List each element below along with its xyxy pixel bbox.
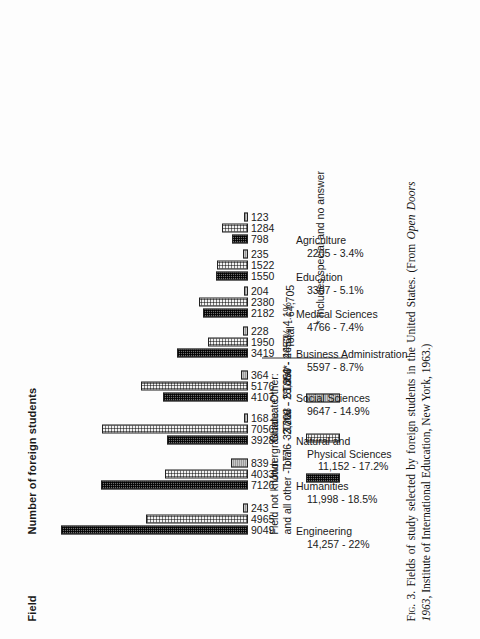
field-label: Natural andPhysical Sciences11,152 - 17.… [296, 435, 392, 473]
undergraduate-bar [203, 308, 248, 317]
caption-figure-number: Fig. 3. [405, 590, 417, 621]
field-label: Medical Sciences4766 - 7.4% [296, 308, 378, 333]
bar-value-label: 1950 [251, 337, 274, 348]
graduate-bar [208, 337, 248, 346]
field-label: Agriculture2205 - 3.4% [296, 234, 364, 259]
bar-value-label: 364 [251, 370, 269, 381]
other-bar [243, 326, 248, 335]
bar-value-label: 1284 [251, 223, 274, 234]
graduate-bar [146, 514, 248, 523]
bar-value-label: 3928 [251, 435, 274, 446]
graduate-bar [165, 469, 248, 478]
column-header-field: Field [26, 595, 38, 621]
bar-value-label: 228 [251, 326, 269, 337]
bar-value-label: 1522 [251, 260, 274, 271]
bar-value-label: 798 [251, 234, 269, 245]
figure-caption: Fig. 3. Fields of study selected by fore… [404, 181, 434, 621]
bar-value-label: 4107 [251, 392, 274, 403]
grand-total-label: Total - 64,705 [284, 284, 297, 348]
bar-value-label: 123 [251, 212, 269, 223]
bar-value-label: 7126 [251, 480, 274, 491]
bar-value-label: 5176 [251, 381, 274, 392]
bar-value-label: 1550 [251, 271, 274, 282]
undergraduate-bar [232, 234, 248, 243]
other-bar [244, 212, 248, 221]
other-bar [243, 503, 248, 512]
field-label: Education3307 - 5.1% [296, 271, 364, 296]
other-bar [243, 249, 248, 258]
bar-value-label: 2380 [251, 297, 274, 308]
bar-value-label: 3419 [251, 348, 274, 359]
bar-value-label: 7056 [251, 424, 274, 435]
bar-value-label: 4033 [251, 469, 274, 480]
field-label: Business Administration5597 - 8.7% [296, 348, 407, 373]
field-label: Social Sciences9647 - 14.9% [296, 392, 370, 417]
graduate-bar [199, 297, 248, 306]
column-header-value: Number of foreign students [26, 387, 38, 534]
bar-value-label: 243 [251, 503, 269, 514]
graduate-bar [217, 260, 248, 269]
caption-text: Fields of study selected by foreign stud… [405, 181, 432, 621]
other-bar [244, 286, 248, 295]
other-bar [231, 458, 248, 467]
field-label: Engineering14,257 - 22% [296, 525, 369, 550]
bar-value-label: 9049 [251, 525, 274, 536]
graduate-bar [222, 223, 248, 232]
undergraduate-bar [216, 271, 248, 280]
bar-value-label: 2182 [251, 308, 274, 319]
other-bar [241, 370, 249, 379]
undergraduate-bar [101, 480, 248, 489]
field-label: Humanities11,998 - 18.5% [296, 480, 377, 505]
bar-value-label: 204 [251, 286, 269, 297]
other-bar [244, 413, 248, 422]
undergraduate-bar [177, 348, 248, 357]
bar-chart-plot [52, 189, 248, 534]
graduate-bar [102, 424, 248, 433]
figure-page: Field Number of foreign students Field n… [0, 0, 480, 639]
undergraduate-bar [163, 392, 248, 401]
bar-value-label: 235 [251, 249, 269, 260]
figure-body: Field Number of foreign students Field n… [0, 0, 480, 639]
bar-value-label: 839 [251, 458, 269, 469]
graduate-bar [141, 381, 248, 390]
bar-value-label: 168 [251, 413, 269, 424]
undergraduate-bar [167, 435, 248, 444]
rotated-figure-wrapper: Field Number of foreign students Field n… [0, 0, 480, 639]
undergraduate-bar [61, 525, 248, 534]
bar-value-label: 4965 [251, 514, 274, 525]
